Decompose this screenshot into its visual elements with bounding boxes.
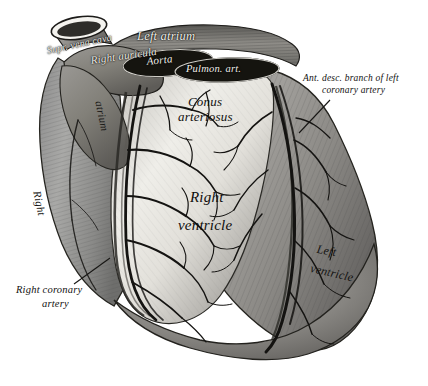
label-conus-line1: Conus bbox=[188, 95, 222, 109]
label-conus-line2: arteriosus bbox=[178, 110, 233, 124]
heart-anatomy-figure: Supr. vena cava Left atrium Right auricu… bbox=[0, 0, 428, 386]
label-ant-desc-line1: Ant. desc. branch of left bbox=[303, 74, 399, 84]
label-right-coronary-line1: Right coronary bbox=[16, 284, 82, 295]
label-left-ventricle-line1: Left bbox=[316, 243, 337, 259]
label-right-ventricle-line2: ventricle bbox=[178, 218, 232, 234]
label-left-atrium: Left atrium bbox=[137, 30, 195, 43]
label-right-coronary-line2: artery bbox=[42, 298, 69, 309]
label-right-ventricle-line1: Right bbox=[190, 190, 224, 206]
label-pulmonary-artery: Pulmon. art. bbox=[186, 63, 241, 74]
label-ant-desc-line2: coronary artery bbox=[322, 86, 385, 96]
